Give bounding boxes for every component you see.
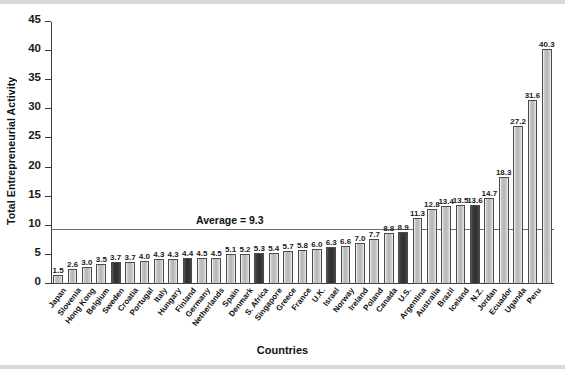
bar-value-label: 4.4 [182,249,193,258]
bar-value-label: 8.9 [398,223,409,232]
bar-slot: 4.3 [168,22,178,284]
bar-value-label: 2.6 [67,260,78,269]
bar-slot: 6.6 [341,22,351,284]
bar-slot: 3.0 [82,22,92,284]
bar-value-label: 5.1 [225,245,236,254]
bar-value-label: 5.3 [254,244,265,253]
y-axis-tick-label: 40 [28,42,41,54]
bar-value-label: 13.6 [467,196,483,205]
bar-slot: 6.3 [326,22,336,284]
bar[interactable]: 1.5 [53,275,63,284]
bar-slot: 40.3 [542,22,552,284]
bar-value-label: 7.7 [369,230,380,239]
bar-slot: 12.8 [427,22,437,284]
chart-figure: Total Entrepreneurial Activity 051015202… [0,0,565,369]
bar-value-label: 4.5 [211,249,222,258]
bar-slot: 18.3 [499,22,509,284]
bar-slot: 6.0 [312,22,322,284]
x-axis-title: Countries [0,344,565,356]
bar-slot: 8.8 [384,22,394,284]
bar-slot: 3.7 [125,22,135,284]
bar-value-label: 31.6 [525,91,541,100]
bar-slot: 13.5 [456,22,466,284]
bar-slot: 3.7 [111,22,121,284]
bar-slot: 4.5 [211,22,221,284]
x-axis-category-labels: JapanSloveniaHong KongBelgiumSwedenCroat… [51,286,554,344]
bar-slot: 5.4 [269,22,279,284]
bar-slot: 14.7 [484,22,494,284]
bar-slot: 13.6 [470,22,480,284]
bar-slot: 13.4 [441,22,451,284]
bar-slot: 4.3 [154,22,164,284]
y-axis-tick-label: 0 [35,275,41,287]
bar-slot: 31.6 [528,22,538,284]
bar-slot: 5.8 [298,22,308,284]
bar-slot: 4.0 [140,22,150,284]
bar-value-label: 5.8 [297,241,308,250]
y-axis-tick-label: 35 [28,71,41,83]
bar-slot: 5.7 [283,22,293,284]
bar-slot: 2.6 [68,22,78,284]
y-axis-tick-label: 10 [28,217,41,229]
figure-top-border [0,0,565,4]
bar-slot: 27.2 [513,22,523,284]
y-axis-tick-label: 5 [35,246,41,258]
bar-value-label: 40.3 [539,40,555,49]
bar-value-label: 6.6 [340,237,351,246]
bar-slot: 4.4 [183,22,193,284]
bar-value-label: 18.3 [496,168,512,177]
bar-value-label: 6.0 [311,240,322,249]
bar-slot: 4.5 [197,22,207,284]
plot-area: 051015202530354045 Average = 9.3 1.52.63… [51,22,554,284]
y-axis-title: Total Entrepreneurial Activity [4,26,18,276]
bar-slot: 5.2 [240,22,250,284]
bar-slot: 1.5 [53,22,63,284]
bar-value-label: 4.3 [153,250,164,259]
bar-value-label: 6.3 [326,238,337,247]
bar-value-label: 5.7 [283,242,294,251]
bar-value-label: 4.3 [168,250,179,259]
y-axis-tick-label: 15 [28,188,41,200]
bar-slot: 11.3 [413,22,423,284]
bar-slot: 7.7 [369,22,379,284]
bar-value-label: 14.7 [482,189,498,198]
bar-value-label: 11.3 [410,209,425,218]
bar-slot: 5.3 [254,22,264,284]
bar[interactable]: 27.2 [513,126,523,284]
bar-value-label: 8.8 [383,224,394,233]
bar-value-label: 13.4 [438,197,454,206]
y-axis-tick-label: 30 [28,100,41,112]
bar-slot: 3.5 [96,22,106,284]
bar[interactable]: 40.3 [542,49,552,284]
bar-series: 1.52.63.03.53.73.74.04.34.34.44.54.55.15… [51,22,554,284]
bar-slot: 7.0 [355,22,365,284]
bar-value-label: 7.0 [354,234,365,243]
bar-value-label: 5.4 [268,244,279,253]
bar-value-label: 1.5 [53,266,64,275]
figure-bottom-border [0,365,565,369]
y-axis-tick-label: 45 [28,13,41,25]
bar-value-label: 3.7 [124,253,135,262]
y-axis-tick-label: 20 [28,159,41,171]
bar[interactable]: 31.6 [528,100,538,284]
bar-slot: 5.1 [226,22,236,284]
bar-slot: 8.9 [398,22,408,284]
bar-value-label: 27.2 [510,117,526,126]
y-axis-tick-label: 25 [28,129,41,141]
bar-value-label: 13.5 [453,196,469,205]
bar-value-label: 12.8 [424,200,440,209]
bar-value-label: 4.5 [196,249,207,258]
bar-value-label: 4.0 [139,252,150,261]
